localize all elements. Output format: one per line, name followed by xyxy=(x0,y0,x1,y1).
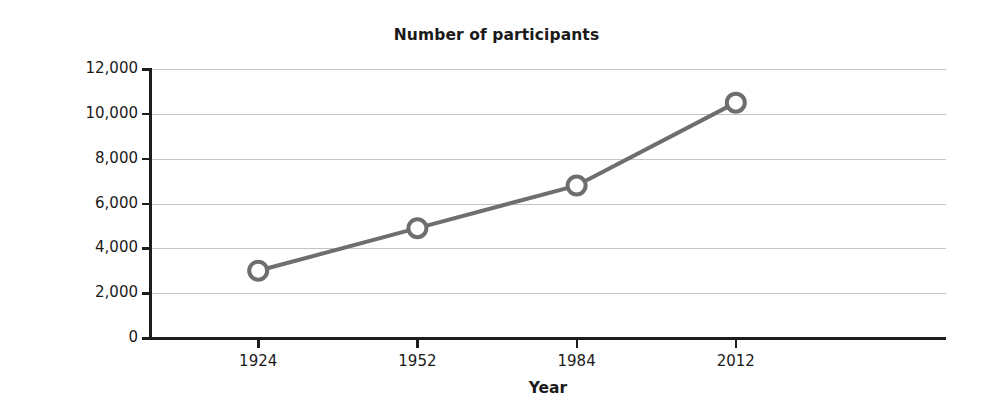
y-tick-mark xyxy=(142,113,150,116)
x-tick-mark xyxy=(257,339,260,348)
x-tick-label: 1952 xyxy=(357,352,477,370)
y-tick-mark xyxy=(142,68,150,71)
x-axis-title: Year xyxy=(150,379,946,397)
y-tick-label: 0 xyxy=(56,328,138,346)
gridline xyxy=(150,159,946,160)
gridline xyxy=(150,114,946,115)
x-tick-mark xyxy=(576,339,579,348)
gridline xyxy=(150,204,946,205)
x-tick-mark xyxy=(416,339,419,348)
chart-title: Number of participants xyxy=(0,26,993,44)
y-tick-mark xyxy=(142,203,150,206)
chart-container: Number of participants Participants Year… xyxy=(0,0,993,411)
gridline xyxy=(150,248,946,249)
y-tick-label: 8,000 xyxy=(56,149,138,167)
gridline xyxy=(150,293,946,294)
y-tick-mark xyxy=(142,158,150,161)
y-tick-mark xyxy=(142,337,150,340)
y-tick-label: 4,000 xyxy=(56,238,138,256)
x-axis-line xyxy=(149,337,946,340)
y-tick-label-group: 12,00010,0008,0006,0004,0002,0000 xyxy=(52,0,138,411)
x-tick-mark xyxy=(735,339,738,348)
x-tick-label: 1924 xyxy=(198,352,318,370)
x-tick-label: 2012 xyxy=(676,352,796,370)
y-tick-label: 6,000 xyxy=(56,194,138,212)
y-tick-label: 2,000 xyxy=(56,283,138,301)
plot-area xyxy=(150,69,946,338)
gridline xyxy=(150,69,946,70)
y-tick-mark xyxy=(142,247,150,250)
x-tick-label: 1984 xyxy=(517,352,637,370)
y-tick-label: 10,000 xyxy=(56,104,138,122)
y-tick-label: 12,000 xyxy=(56,59,138,77)
y-tick-mark xyxy=(142,292,150,295)
